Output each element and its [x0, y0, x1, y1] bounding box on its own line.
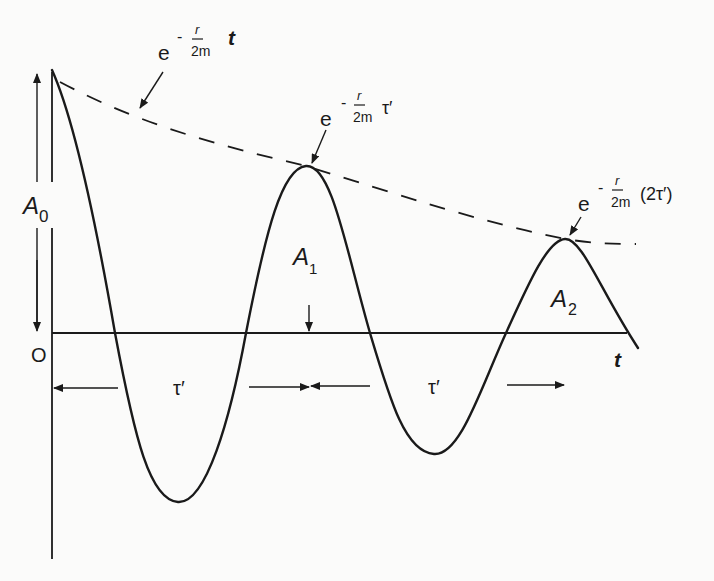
origin-label: O — [31, 344, 47, 366]
peak2-label-pointer — [570, 217, 581, 235]
svg-text:-: - — [598, 179, 603, 196]
svg-text:e: e — [578, 192, 590, 215]
svg-text:2m: 2m — [191, 43, 210, 59]
svg-text:2m: 2m — [353, 109, 372, 125]
svg-text:-: - — [177, 28, 182, 45]
svg-text:A: A — [21, 192, 39, 219]
time-axis-label: t — [614, 348, 622, 371]
envelope-label: e - r 2m t — [158, 22, 236, 64]
peak1-label-pointer — [312, 130, 326, 163]
damped-oscillation-figure: e - r 2m t e - r 2m τ′ e - r 2m (2τ′) A … — [0, 0, 714, 581]
svg-text:(2τ′): (2τ′) — [640, 184, 672, 204]
period2-label: τ′ — [428, 376, 440, 398]
amplitude-a1-label: A 1 — [291, 243, 317, 277]
peak1-label: e - r 2m τ′ — [320, 88, 393, 130]
svg-text:A: A — [549, 285, 567, 312]
svg-text:e: e — [320, 107, 332, 130]
svg-text:r: r — [195, 22, 200, 37]
svg-text:r: r — [357, 88, 362, 103]
envelope-curve — [60, 82, 636, 244]
svg-text:e: e — [158, 41, 170, 64]
svg-text:t: t — [228, 26, 236, 49]
svg-text:2: 2 — [568, 301, 577, 318]
svg-text:1: 1 — [309, 260, 317, 277]
svg-text:0: 0 — [39, 207, 48, 226]
svg-text:-: - — [341, 94, 346, 111]
svg-text:τ′: τ′ — [382, 98, 393, 118]
period1-label: τ′ — [173, 377, 185, 399]
svg-text:2m: 2m — [611, 194, 630, 210]
peak2-label: e - r 2m (2τ′) — [578, 173, 672, 215]
svg-text:A: A — [291, 243, 309, 270]
amplitude-a2-label: A 2 — [549, 285, 577, 318]
envelope-label-pointer — [140, 72, 163, 108]
svg-text:r: r — [615, 173, 620, 188]
